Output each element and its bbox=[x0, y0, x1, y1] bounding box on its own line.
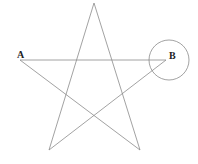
star-outline bbox=[20, 3, 166, 150]
point-a-label: A bbox=[17, 49, 25, 60]
pentagram-diagram: A B bbox=[0, 0, 198, 164]
point-b-label: B bbox=[169, 50, 176, 61]
